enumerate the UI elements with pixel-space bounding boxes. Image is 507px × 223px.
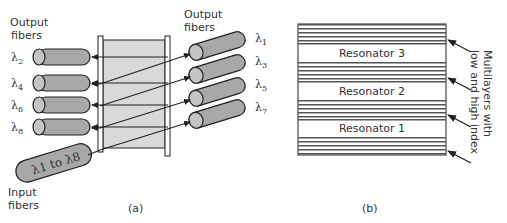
caption-b: (b) xyxy=(362,202,378,215)
right-lambda-labels: λ1 λ3 λ5 λ7 xyxy=(255,32,267,116)
lambda-symbol: λ xyxy=(11,77,18,90)
lambda-symbol: λ xyxy=(255,78,262,91)
left-fiber-8 xyxy=(33,119,90,135)
lambda-symbol: λ xyxy=(255,32,262,45)
panel-b: Resonator 3 Resonator 2 Resonator 1 Mult… xyxy=(298,24,494,215)
svg-text:λ1: λ1 xyxy=(255,32,267,47)
lambda-symbol: λ xyxy=(11,51,18,64)
svg-text:λ8: λ8 xyxy=(11,121,23,136)
lambda-subscript: 4 xyxy=(18,83,23,92)
caption-a: (a) xyxy=(128,202,143,215)
input-fibers-label-1: Input xyxy=(8,186,37,199)
filter-body xyxy=(103,40,165,148)
svg-text:λ6: λ6 xyxy=(11,99,23,114)
lambda-symbol: λ xyxy=(255,55,262,68)
left-lambda-labels: λ2 λ4 λ6 λ8 xyxy=(11,51,23,136)
resonator-3-label: Resonator 3 xyxy=(339,47,405,60)
resonator-1-label: Resonator 1 xyxy=(339,122,405,135)
lambda-subscript: 1 xyxy=(262,38,267,47)
annotation-line-1: Multilayers with xyxy=(481,50,494,137)
filter-left-plate xyxy=(98,36,103,152)
lambda-subscript: 6 xyxy=(18,105,23,114)
left-fiber-2 xyxy=(33,49,90,65)
left-output-fibers-label-2: fibers xyxy=(11,29,42,42)
lambda-subscript: 7 xyxy=(262,107,267,116)
input-fiber: λ1 to λ8 xyxy=(13,141,94,185)
svg-text:λ3: λ3 xyxy=(255,55,267,70)
svg-text:λ4: λ4 xyxy=(11,77,23,92)
filter-right-plate xyxy=(165,36,170,156)
resonator-2-label: Resonator 2 xyxy=(339,85,405,98)
multilayer-pointer-arrows xyxy=(448,40,471,163)
left-fiber-6 xyxy=(33,97,90,113)
annotation-line-2: low and high index xyxy=(468,50,481,155)
lambda-symbol: λ xyxy=(11,121,18,134)
lambda-symbol: λ xyxy=(11,99,18,112)
lambda-subscript: 8 xyxy=(18,127,23,136)
left-output-fibers-label-1: Output xyxy=(10,16,49,29)
lambda-subscript: 3 xyxy=(262,61,267,70)
multilayer-annotation: Multilayers with low and high index xyxy=(468,50,494,155)
right-output-fibers-label-2: fibers xyxy=(184,21,215,34)
lambda-subscript: 2 xyxy=(18,57,23,66)
svg-text:λ2: λ2 xyxy=(11,51,23,66)
left-fiber-4 xyxy=(33,75,90,91)
right-output-fibers-label-1: Output xyxy=(184,8,223,21)
lambda-subscript: 5 xyxy=(262,84,267,93)
svg-text:λ7: λ7 xyxy=(255,101,267,116)
panel-a: λ1 to λ8 Output fibers Output fibers Inp… xyxy=(8,8,267,215)
input-fibers-label-2: fibers xyxy=(8,199,39,212)
lambda-symbol: λ xyxy=(255,101,262,114)
diagram-canvas: λ1 to λ8 Output fibers Output fibers Inp… xyxy=(0,0,507,223)
svg-text:λ5: λ5 xyxy=(255,78,267,93)
